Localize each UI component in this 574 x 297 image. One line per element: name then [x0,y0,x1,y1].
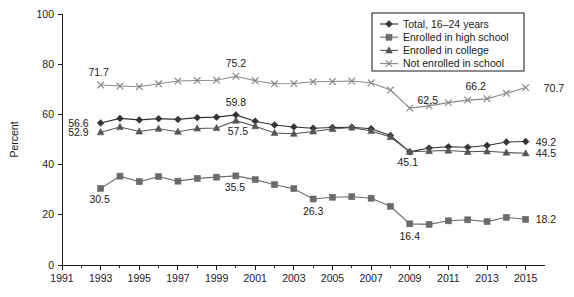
data-point-square [503,214,509,220]
data-point-square [291,186,297,192]
data-point-diamond [97,120,104,127]
series-enrolled-in-high-school [98,173,529,227]
data-point-square [387,203,393,209]
data-value-label: 16.4 [400,230,421,242]
data-point-diamond [271,122,278,129]
data-point-square [386,34,392,40]
data-point-square [272,182,278,188]
y-axis-title: Percent [8,121,20,157]
data-value-label: 59.8 [226,96,247,108]
data-point-square [368,195,374,201]
legend: Total, 16–24 yearsEnrolled in high schoo… [372,13,524,71]
data-point-diamond [155,115,162,122]
data-value-label: 26.3 [303,205,324,217]
data-point-cross [522,84,529,91]
x-tick-label: 2005 [321,272,345,284]
data-value-label: 30.5 [89,193,110,205]
chart-container: 0204060801001991199319951997199920012003… [0,0,574,297]
legend-label: Not enrolled in school [403,57,504,69]
data-point-diamond [194,114,201,121]
data-point-square [233,173,239,179]
y-tick-label: 60 [42,108,54,120]
data-point-square [465,217,471,223]
data-value-label: 57.5 [228,125,249,137]
data-point-square [310,196,316,202]
x-tick-label: 2003 [282,272,306,284]
data-point-diamond [290,124,297,131]
data-point-square [523,216,529,222]
data-point-diamond [503,139,510,146]
data-point-cross [387,87,394,94]
x-tick-label: 2013 [475,272,499,284]
data-point-square [136,179,142,185]
data-point-square [349,194,355,200]
x-tick-label: 2015 [514,272,538,284]
data-value-label: 35.5 [225,181,246,193]
data-point-square [329,194,335,200]
data-point-cross [503,90,510,97]
data-value-label: 49.2 [536,136,557,148]
y-tick-label: 40 [42,158,54,170]
data-point-square [117,173,123,179]
data-value-label: 52.9 [68,126,89,138]
series-enrolled-in-college [97,117,529,156]
data-point-diamond [522,138,529,145]
data-point-square [194,175,200,181]
data-value-label: 70.7 [544,82,565,94]
y-tick-label: 20 [42,208,54,220]
y-tick-label: 0 [48,259,54,271]
data-point-square [98,185,104,191]
data-point-diamond [117,115,124,122]
x-tick-label: 1997 [166,272,190,284]
series-not-enrolled-in-school [97,73,529,111]
line-chart: 0204060801001991199319951997199920012003… [0,0,574,297]
data-point-triangle [117,123,124,129]
data-point-square [484,219,490,225]
legend-label: Enrolled in high school [403,31,509,43]
data-point-diamond [213,114,220,121]
data-point-square [426,221,432,227]
legend-label: Enrolled in college [403,44,489,56]
data-value-label: 62.5 [418,94,439,106]
data-point-triangle [484,148,491,154]
data-value-label: 75.2 [226,57,247,69]
data-point-diamond [175,116,182,123]
data-point-square [407,221,413,227]
x-tick-label: 2011 [437,272,460,284]
x-tick-label: 2007 [359,272,383,284]
data-point-square [445,218,451,224]
data-point-diamond [136,117,143,124]
data-value-label: 71.7 [88,66,109,78]
y-tick-label: 80 [42,58,54,70]
data-value-label: 44.5 [536,147,557,159]
data-point-square [156,174,162,180]
x-tick-label: 1991 [50,272,74,284]
data-point-square [252,177,258,183]
x-tick-label: 1995 [128,272,152,284]
x-tick-label: 2009 [398,272,422,284]
data-point-square [175,178,181,184]
data-value-label: 45.1 [398,156,419,168]
y-tick-label: 100 [36,8,54,20]
data-point-square [214,174,220,180]
data-point-triangle [232,117,239,123]
x-tick-label: 1999 [205,272,229,284]
data-value-label: 66.2 [466,80,487,92]
data-value-label: 18.2 [536,213,557,225]
legend-label: Total, 16–24 years [403,18,489,30]
data-point-triangle [155,125,162,131]
x-tick-label: 2001 [244,272,268,284]
x-tick-label: 1993 [89,272,113,284]
